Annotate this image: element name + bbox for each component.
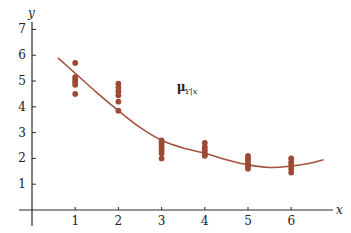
data-points bbox=[72, 60, 294, 175]
y-ticks: 1234567 bbox=[18, 22, 36, 191]
y-tick-label: 2 bbox=[18, 151, 26, 165]
data-point bbox=[288, 170, 294, 176]
x-tick-label: 5 bbox=[244, 214, 252, 228]
data-point bbox=[72, 82, 78, 88]
x-tick-label: 3 bbox=[158, 214, 166, 228]
data-point bbox=[159, 150, 165, 156]
x-tick-label: 6 bbox=[287, 214, 295, 228]
data-point bbox=[245, 166, 251, 172]
y-tick-label: 1 bbox=[18, 177, 26, 191]
y-tick-label: 3 bbox=[18, 126, 26, 140]
x-tick-label: 1 bbox=[71, 214, 79, 228]
mu-subscript: Y|x bbox=[185, 87, 198, 96]
data-point bbox=[159, 156, 165, 162]
x-axis-label: x bbox=[336, 203, 343, 217]
regression-curve bbox=[58, 58, 324, 168]
x-tick-label: 4 bbox=[201, 214, 209, 228]
x-axis: 123456 x bbox=[19, 203, 343, 228]
data-point bbox=[72, 91, 78, 97]
y-tick-label: 5 bbox=[18, 74, 26, 88]
y-axis-label: y bbox=[27, 6, 35, 20]
data-point bbox=[116, 92, 122, 98]
y-axis: 1234567 y bbox=[18, 6, 36, 226]
y-tick-label: 7 bbox=[18, 22, 26, 36]
data-point bbox=[116, 108, 122, 114]
y-tick-label: 6 bbox=[18, 48, 26, 62]
data-point bbox=[72, 60, 78, 66]
data-point bbox=[202, 153, 208, 159]
scatter-chart: 123456 x 1234567 y μ Y|x bbox=[0, 0, 351, 233]
y-tick-label: 4 bbox=[18, 100, 26, 114]
x-tick-label: 2 bbox=[115, 214, 123, 228]
curve-annotation: μ Y|x bbox=[177, 80, 198, 96]
data-point bbox=[116, 99, 122, 105]
